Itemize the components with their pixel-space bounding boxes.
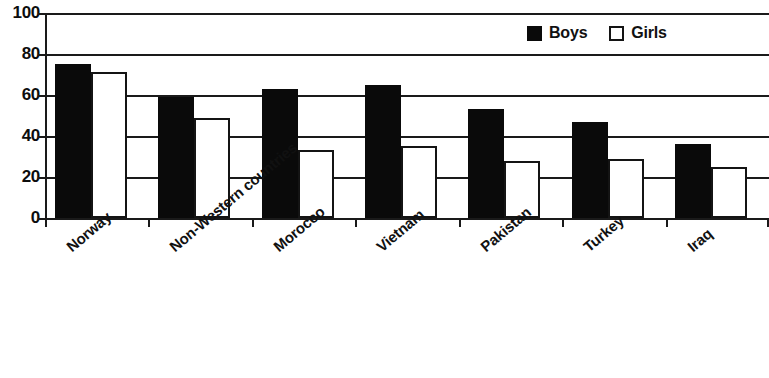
x-axis-category-label: Iraq [684,225,715,255]
bar-boys [365,85,401,218]
bar-group [572,13,644,218]
bar-group [675,13,747,218]
y-tick-label: 40 [2,127,40,144]
y-tick-mark [38,54,45,56]
bar-girls [711,167,747,218]
bar-chart: 020406080100 NorwayNon-Western countries… [0,0,769,378]
y-tick-label: 80 [2,45,40,62]
legend-label: Girls [631,24,666,42]
y-tick-label: 20 [2,168,40,185]
bar-boys [158,97,194,218]
x-tick-mark [148,218,150,227]
bar-group [158,13,230,218]
bar-group [55,13,127,218]
bar-boys [468,109,504,218]
bar-girls [401,146,437,218]
bar-girls [608,159,644,218]
y-tick-mark [38,218,45,220]
filled-square-icon [527,26,542,41]
bar-girls [91,72,127,218]
x-tick-mark [45,218,47,227]
legend-label: Boys [549,24,587,42]
bars-layer [45,13,769,218]
y-tick-label: 0 [2,209,40,226]
legend-entry: Boys [527,24,587,42]
x-tick-mark [252,218,254,227]
bar-boys [675,144,711,218]
y-tick-label: 60 [2,86,40,103]
outlined-square-icon [609,26,624,41]
y-tick-label: 100 [2,4,40,21]
bar-boys [55,64,91,218]
y-tick-mark [38,136,45,138]
bar-group [262,13,334,218]
chart-legend: BoysGirls [527,24,667,42]
y-axis-labels: 020406080100 [0,0,40,378]
y-tick-mark [38,13,45,15]
bar-group [468,13,540,218]
x-tick-mark [355,218,357,227]
y-tick-mark [38,95,45,97]
bar-boys [572,122,608,218]
bar-group [365,13,437,218]
x-tick-mark [562,218,564,227]
x-tick-mark [459,218,461,227]
legend-entry: Girls [609,24,666,42]
y-tick-mark [38,177,45,179]
x-tick-mark [666,218,668,227]
